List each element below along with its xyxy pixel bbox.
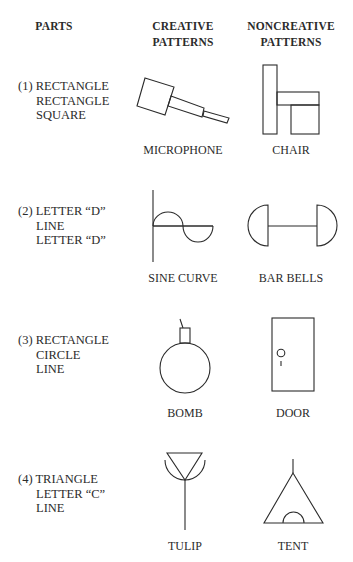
bar-bells-figure — [248, 205, 337, 246]
microphone-figure — [137, 78, 229, 123]
door-figure — [272, 318, 314, 391]
chair-back — [263, 65, 277, 134]
tulip-letter-c — [165, 460, 205, 480]
barbell-right-weight — [317, 205, 337, 246]
sine-curve-figure — [153, 190, 213, 262]
sine-upper-half — [153, 212, 183, 226]
figures-canvas — [0, 0, 353, 562]
chair-seat — [277, 92, 319, 105]
microphone-rectangle-large — [168, 96, 204, 117]
tent-door-arc — [283, 512, 304, 523]
tulip-figure — [165, 453, 205, 530]
bomb-cap — [180, 328, 190, 343]
bomb-body — [160, 343, 210, 393]
bomb-figure — [160, 319, 210, 393]
chair-figure — [263, 65, 319, 134]
tent-figure — [264, 459, 323, 523]
chair-base — [291, 105, 319, 134]
microphone-rectangle-small — [203, 111, 229, 123]
barbell-left-weight — [248, 205, 268, 246]
door-frame — [272, 318, 314, 391]
sine-lower-half — [183, 226, 213, 242]
door-knob — [277, 349, 285, 357]
tent-triangle — [264, 473, 323, 523]
bomb-fuse — [180, 319, 183, 328]
microphone-square — [137, 78, 174, 115]
